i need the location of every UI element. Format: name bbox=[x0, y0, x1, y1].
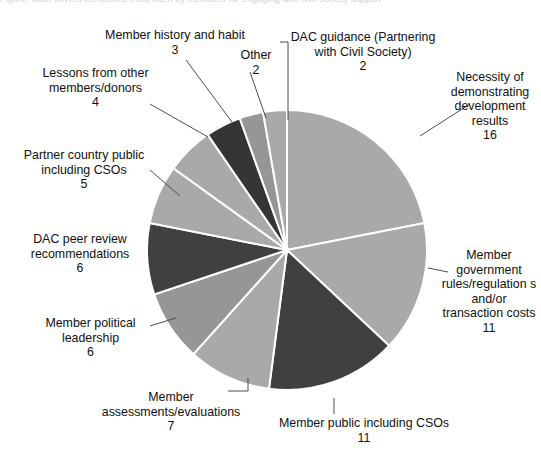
label-text: Member assessments/evaluations bbox=[102, 390, 240, 419]
label-text: Other bbox=[241, 48, 272, 62]
leader-line-other bbox=[250, 72, 266, 118]
label-value: 11 bbox=[440, 321, 538, 336]
slice-label-dac-guidance: DAC guidance (Partnering with Civil Soci… bbox=[278, 30, 448, 74]
label-value: 2 bbox=[226, 63, 286, 78]
slice-label-member-assessments-evaluations: Member assessments/evaluations 7 bbox=[86, 390, 256, 434]
label-value: 16 bbox=[440, 128, 540, 143]
label-text: Member political leadership bbox=[45, 316, 135, 345]
label-value: 11 bbox=[276, 431, 452, 446]
label-text: Necessity of demonstrating development r… bbox=[451, 70, 530, 128]
label-value: 6 bbox=[4, 261, 156, 276]
label-text: DAC guidance (Partnering with Civil Soci… bbox=[291, 30, 436, 59]
label-text: DAC peer review recommendations bbox=[31, 232, 129, 261]
label-value: 2 bbox=[278, 59, 448, 74]
label-text: Member history and habit bbox=[105, 28, 245, 42]
label-value: 4 bbox=[18, 95, 173, 110]
label-text: Member public including CSOs bbox=[279, 416, 449, 430]
pie-slices-group bbox=[147, 110, 427, 390]
slice-label-lessons-from-other-members-donors: Lessons from other members/donors 4 bbox=[18, 66, 173, 110]
label-value: 6 bbox=[18, 345, 163, 360]
label-value: 5 bbox=[4, 177, 164, 192]
label-value: 7 bbox=[86, 419, 256, 434]
slice-label-other: Other 2 bbox=[226, 48, 286, 77]
slice-label-member-government-rules: Member government rules/regulation s and… bbox=[440, 248, 538, 336]
chart-canvas: Figure: Main drivers mentioned most ofte… bbox=[0, 0, 541, 465]
label-text: Partner country public including CSOs bbox=[24, 148, 145, 177]
label-text: Member government rules/regulation s and… bbox=[442, 248, 536, 320]
slice-label-member-political-leadership: Member political leadership 6 bbox=[18, 316, 163, 360]
slice-label-dac-peer-review-recommendations: DAC peer review recommendations 6 bbox=[4, 232, 156, 276]
label-text: Lessons from other members/donors bbox=[42, 66, 148, 95]
slice-label-partner-country-public-including-csos: Partner country public including CSOs 5 bbox=[4, 148, 164, 192]
slice-label-necessity-of-demonstrating-development-results: Necessity of demonstrating development r… bbox=[440, 70, 540, 143]
slice-label-member-public-including-csos: Member public including CSOs 11 bbox=[276, 416, 452, 445]
